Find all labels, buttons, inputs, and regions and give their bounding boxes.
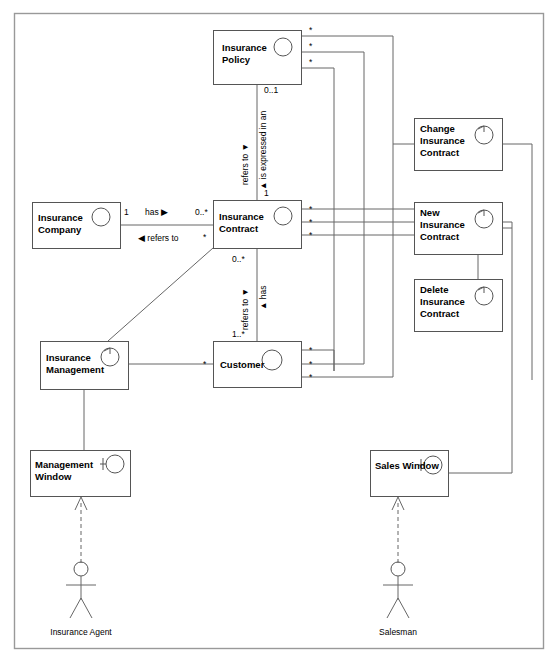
class-label-line2: Insurance [420, 296, 465, 307]
multiplicity-company-end: 1 [124, 207, 129, 217]
class-insurance-company[interactable]: Insurance Company [33, 203, 121, 249]
class-insurance-policy[interactable]: Insurance Policy [214, 31, 302, 85]
association-refers-to-left: ◀ refers to [138, 233, 179, 243]
class-sales-window[interactable]: Sales Window [371, 451, 449, 497]
class-label-line3: Contract [420, 231, 460, 242]
class-label-line2: Window [35, 471, 72, 482]
class-label-line1: Insurance [222, 42, 267, 53]
class-label-line1: Customer [220, 359, 265, 370]
actor-label: Insurance Agent [50, 627, 112, 637]
multiplicity-policy-star-1: * [309, 25, 313, 35]
class-label-line2: Management [46, 364, 105, 375]
association-has-vertical: ▲ has [258, 286, 268, 310]
multiplicity-company-contract-end: 0..* [195, 207, 208, 217]
class-label-line1: Delete [420, 284, 449, 295]
class-delete-insurance-contract[interactable]: Delete Insurance Contract [415, 280, 503, 332]
multiplicity-contract-to-customer-top: 0..* [232, 254, 245, 264]
class-new-insurance-contract[interactable]: New Insurance Contract [415, 203, 503, 255]
multiplicity-company-refers-end: * [203, 232, 207, 242]
class-label-line1: Change [420, 123, 455, 134]
actor-label: Salesman [379, 627, 417, 637]
class-management-window[interactable]: Management Window [31, 451, 131, 497]
class-label-line1: Insurance [38, 212, 83, 223]
class-customer[interactable]: Customer [214, 342, 302, 388]
class-label-line3: Contract [420, 147, 460, 158]
association-is-expressed-in-an: ▲ is expressed in an [258, 110, 268, 190]
class-insurance-contract[interactable]: Insurance Contract [214, 201, 302, 249]
class-label-line2: Policy [222, 54, 251, 65]
class-label-line1: Insurance [46, 352, 91, 363]
diagram-canvas: Insurance Policy Insurance Company Insur… [0, 0, 555, 662]
class-label-line2: Insurance [420, 135, 465, 146]
class-label-line2: Insurance [420, 219, 465, 230]
class-label-line1: Sales Window [375, 460, 439, 471]
class-label-line1: New [420, 207, 440, 218]
actor-insurance-agent[interactable]: Insurance Agent [50, 562, 112, 637]
actor-salesman[interactable]: Salesman [379, 562, 417, 637]
actor-head-icon [391, 562, 405, 576]
class-label-line1: Management [35, 459, 94, 470]
actor-head-icon [74, 562, 88, 576]
class-label-line3: Contract [420, 308, 460, 319]
class-label-line2: Contract [219, 223, 259, 234]
class-label-line2: Company [38, 224, 82, 235]
association-refers-to-vertical-2: refers to ▼ [240, 288, 250, 330]
association-has-right: has ▶ [145, 207, 168, 217]
class-insurance-management[interactable]: Insurance Management [41, 342, 129, 390]
association-refers-to-vertical: refers to ▼ [240, 143, 250, 185]
multiplicity-policy-star-3: * [309, 57, 313, 67]
multiplicity-policy-star-2: * [309, 41, 313, 51]
multiplicity-policy-to-contract-top: 0..1 [264, 85, 278, 95]
class-change-insurance-contract[interactable]: Change Insurance Contract [415, 119, 503, 171]
class-label-line1: Insurance [219, 211, 264, 222]
